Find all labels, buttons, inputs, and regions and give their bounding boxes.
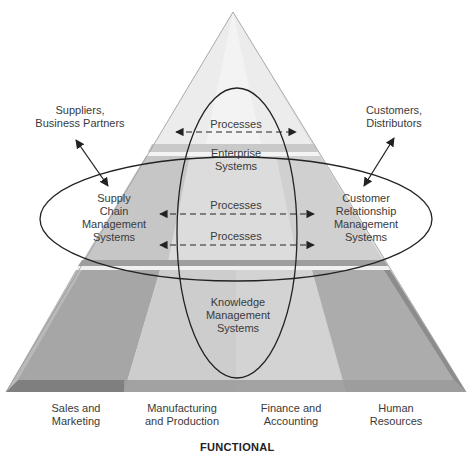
- functional-area-finance: Finance and Accounting: [246, 402, 336, 428]
- supplier-arrow: [76, 140, 108, 186]
- diagram-title: FUNCTIONAL: [200, 441, 275, 453]
- process-label-bottom: Processes: [196, 230, 276, 243]
- process-label-top: Processes: [196, 118, 276, 131]
- enterprise-systems-label: Enterprise Systems: [196, 147, 276, 173]
- scm-label: Supply Chain Management Systems: [66, 192, 162, 244]
- process-label-middle: Processes: [196, 199, 276, 212]
- customers-label: Customers, Distributors: [344, 104, 444, 130]
- crm-label: Customer Relationship Management Systems: [316, 192, 416, 244]
- suppliers-label: Suppliers, Business Partners: [20, 104, 140, 130]
- functional-area-sales: Sales and Marketing: [36, 402, 116, 428]
- customer-arrow: [364, 138, 394, 186]
- functional-area-manufacturing: Manufacturing and Production: [132, 402, 232, 428]
- functional-area-hr: Human Resources: [356, 402, 436, 428]
- kms-label: Knowledge Management Systems: [190, 296, 286, 335]
